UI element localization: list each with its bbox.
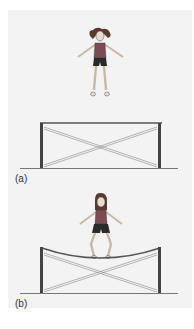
panel-b-trampoline-stretched [40, 247, 161, 293]
panel-b-girl-standing [80, 193, 122, 259]
panel-a-trampoline [40, 123, 162, 168]
panel-a-girl-jumping [78, 28, 123, 96]
panel-a-label: (a) [15, 173, 27, 184]
panel-b-label: (b) [15, 298, 27, 309]
figure-drawing [0, 0, 194, 329]
